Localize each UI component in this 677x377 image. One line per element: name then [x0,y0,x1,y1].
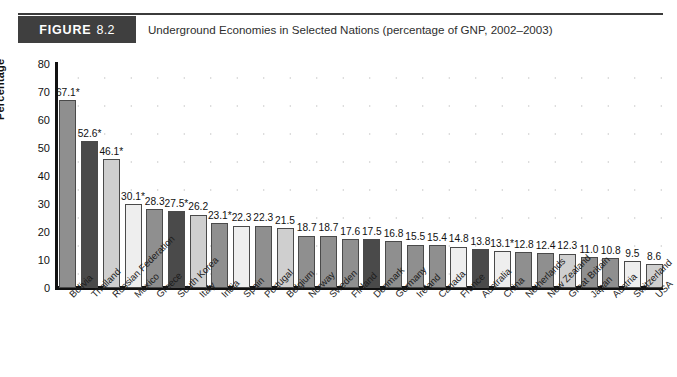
bar [624,261,641,288]
bar [233,226,250,288]
y-axis-title: Percentage [0,59,6,120]
bar [320,236,337,288]
y-tick-label: 60 [22,114,50,126]
bar-value-label: 16.8 [384,229,404,239]
bar [125,204,142,288]
bar-value-label: 10.8 [601,246,621,256]
bar [646,264,663,288]
y-tick-label: 20 [22,226,50,238]
bar-value-label: 14.8 [449,234,469,244]
bar [342,239,359,288]
bar-value-label: 22.3 [253,213,273,223]
bar-value-label: 28.3 [145,197,165,207]
bar-value-label: 18.7 [319,223,339,233]
figure-caption: Underground Economies in Selected Nation… [148,16,553,43]
bar [450,247,467,288]
bar [581,257,598,288]
bar-value-label: 52.6* [78,129,102,139]
bar-value-label: 67.1* [56,88,80,98]
bar [559,254,576,288]
plot-area: 67.1*52.6*46.1*30.1*28.327.5*26.223.1*22… [55,64,663,288]
bar [472,249,489,288]
bar-value-label: 15.5 [405,232,425,242]
bar-value-label: 22.3 [232,213,252,223]
bar [363,239,380,288]
figure-number: 8.2 [96,23,114,37]
bar-value-label: 23.1* [208,211,232,221]
bar-value-label: 17.5 [362,227,382,237]
bar-value-label: 8.6 [647,252,661,262]
bar-value-label: 13.8 [471,237,491,247]
bar-value-label: 30.1* [121,192,145,202]
y-tick-label: 50 [22,142,50,154]
bar-value-label: 17.6 [340,227,360,237]
y-tick-label: 0 [22,282,50,294]
y-tick-label: 40 [22,170,50,182]
bar [515,252,532,288]
bar [146,209,163,288]
bar [494,251,511,288]
bar-value-label: 27.5* [165,199,189,209]
y-tick-label: 10 [22,254,50,266]
bar [602,258,619,288]
bar [211,223,228,288]
figure-tag: FIGURE 8.2 [18,16,136,43]
bar-series: 67.1*52.6*46.1*30.1*28.327.5*26.223.1*22… [55,64,663,288]
bar [81,141,98,288]
figure-word: FIGURE [39,23,91,37]
bar [59,100,76,288]
bar [190,215,207,288]
bar-value-label: 12.3 [557,241,577,251]
bar [385,241,402,288]
figure-container: FIGURE 8.2 Underground Economies in Sele… [0,0,677,377]
bar-value-label: 18.7 [297,223,317,233]
bar-value-label: 26.2 [188,202,208,212]
bar-value-label: 12.8 [514,240,534,250]
bar-value-label: 12.4 [536,241,556,251]
y-tick-label: 70 [22,86,50,98]
y-axis-ticks: 01020304050607080 [18,64,50,288]
bar [407,245,424,288]
bar [298,236,315,288]
bar [168,211,185,288]
header-top-rule [18,13,663,15]
bar-value-label: 21.5 [275,216,295,226]
bar-value-label: 13.1* [490,239,514,249]
bar-value-label: 46.1* [99,147,123,157]
y-tick-label: 80 [22,58,50,70]
y-tick-label: 30 [22,198,50,210]
bar [429,245,446,288]
bar-value-label: 9.5 [625,249,639,259]
bar [277,228,294,288]
bar-value-label: 15.4 [427,233,447,243]
bar [255,226,272,288]
bar [537,253,554,288]
bar [103,159,120,288]
bar-value-label: 11.0 [579,245,598,255]
